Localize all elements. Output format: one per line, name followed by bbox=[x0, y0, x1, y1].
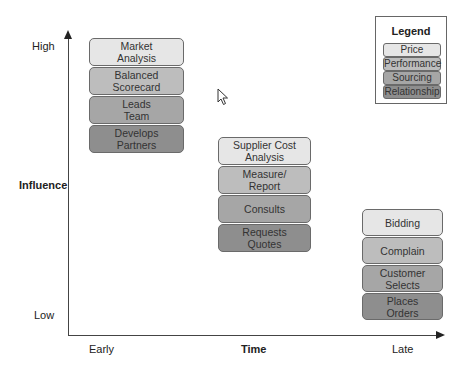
box-supplier-cost-analysis: Supplier Cost Analysis bbox=[218, 137, 311, 165]
y-axis-arrow-icon bbox=[64, 30, 72, 39]
x-tick-early: Early bbox=[89, 343, 114, 355]
x-axis-arrow-icon bbox=[436, 331, 445, 339]
legend-item-relationship: Relationship bbox=[383, 85, 441, 99]
x-axis-line bbox=[68, 335, 443, 336]
legend-item-sourcing: Sourcing bbox=[383, 71, 441, 85]
legend-item-price: Price bbox=[383, 43, 441, 57]
legend-item-performance: Performance bbox=[383, 57, 441, 71]
legend: Legend Price Performance Sourcing Relati… bbox=[375, 16, 447, 104]
box-balanced-scorecard: Balanced Scorecard bbox=[89, 67, 184, 95]
x-axis-label: Time bbox=[241, 343, 266, 355]
stack-early: Market Analysis Balanced Scorecard Leads… bbox=[89, 38, 184, 154]
box-measure-report: Measure/ Report bbox=[218, 166, 311, 194]
box-develops-partners: Develops Partners bbox=[89, 125, 184, 153]
box-market-analysis: Market Analysis bbox=[89, 38, 184, 66]
x-tick-late: Late bbox=[392, 343, 413, 355]
legend-title: Legend bbox=[376, 25, 446, 37]
box-leads-team: Leads Team bbox=[89, 96, 184, 124]
y-axis-label: Influence bbox=[19, 179, 67, 191]
y-axis-line bbox=[68, 36, 69, 336]
box-customer-selects: Customer Selects bbox=[362, 265, 443, 292]
stack-middle: Supplier Cost Analysis Measure/ Report C… bbox=[218, 137, 311, 253]
box-requests-quotes: Requests Quotes bbox=[218, 224, 311, 252]
box-consults: Consults bbox=[218, 195, 311, 223]
box-places-orders: Places Orders bbox=[362, 293, 443, 320]
mouse-cursor-icon bbox=[217, 88, 229, 110]
box-complain: Complain bbox=[362, 237, 443, 264]
y-tick-high: High bbox=[32, 40, 55, 52]
y-tick-low: Low bbox=[34, 309, 54, 321]
box-bidding: Bidding bbox=[362, 209, 443, 236]
stack-late: Bidding Complain Customer Selects Places… bbox=[362, 209, 443, 321]
